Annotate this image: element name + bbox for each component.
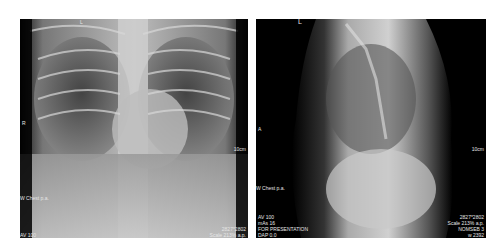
- bottom-right-info: 2827*2802 Scale 213% a.p. NOMSEB 3 w 239…: [448, 214, 484, 238]
- orientation-marker: A: [258, 126, 261, 132]
- scale-marker: 10cm: [472, 146, 484, 152]
- scale-info: Scale 213% a.p.: [210, 232, 246, 238]
- scale-marker: 10cm: [234, 146, 246, 152]
- series-label: W Chest p.a.: [20, 195, 49, 201]
- bottom-right-info: 2827*2802 Scale 213% a.p.: [210, 226, 246, 238]
- bottom-left-info: AV 100 mAs 16 FOR PRESENTATION DAP 0.0: [258, 214, 308, 238]
- series-label: W Chest p.a.: [256, 185, 285, 191]
- lateral-radiograph: [256, 19, 486, 238]
- orientation-marker: R: [22, 120, 26, 126]
- bottom-left-info: AV 100: [20, 232, 36, 238]
- chest-xray-frontal: L R 10cm W Chest p.a. AV 100 2827*2802 S…: [20, 19, 248, 238]
- dap-info: DAP 0.0: [258, 232, 308, 238]
- window-info: w 2392: [448, 232, 484, 238]
- top-left-marker: L: [298, 19, 302, 25]
- acquisition-info: AV 100: [20, 232, 36, 238]
- top-left-marker: L: [80, 19, 83, 25]
- chest-xray-lateral: L A 10cm W Chest p.a. AV 100 mAs 16 FOR …: [256, 19, 486, 238]
- frontal-radiograph: [20, 19, 248, 238]
